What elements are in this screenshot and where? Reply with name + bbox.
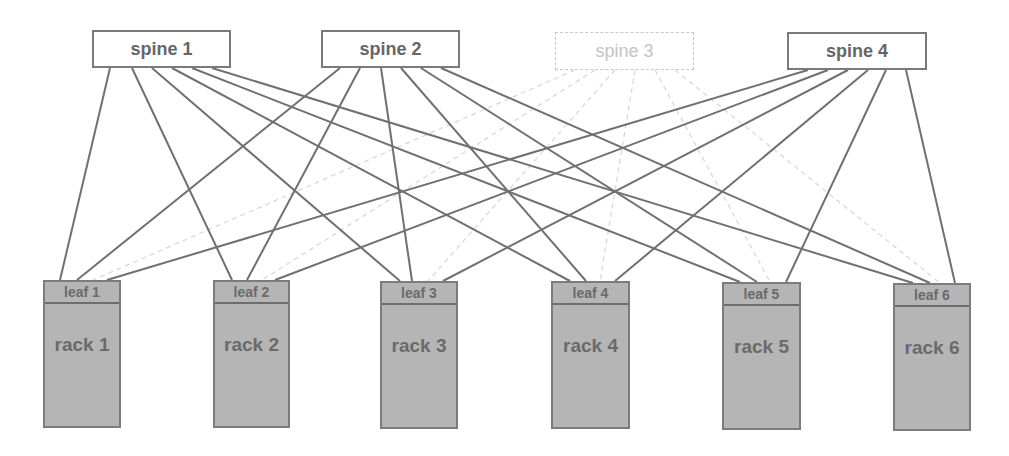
spine-label: spine 2 bbox=[359, 39, 421, 60]
rack-1: leaf 1 rack 1 bbox=[43, 280, 121, 428]
link-line bbox=[172, 68, 570, 281]
inactive-link-line bbox=[600, 70, 635, 281]
spine-switch-3: spine 3 bbox=[555, 32, 694, 70]
link-line bbox=[443, 70, 848, 281]
rack-5: leaf 5 rack 5 bbox=[722, 282, 801, 430]
rack-body: rack 5 bbox=[724, 306, 799, 358]
rack-label: rack 5 bbox=[734, 336, 789, 358]
rack-label: rack 2 bbox=[224, 334, 279, 356]
link-line bbox=[212, 68, 913, 283]
leaf-spine-topology-diagram: spine 1 spine 2 spine 3 spine 4 leaf 1 r… bbox=[0, 0, 1009, 456]
rack-label: rack 3 bbox=[392, 335, 447, 357]
rack-6: leaf 6 rack 6 bbox=[893, 283, 971, 431]
spine-label: spine 3 bbox=[595, 41, 653, 62]
leaf-switch-6: leaf 6 bbox=[895, 285, 969, 307]
rack-label: rack 6 bbox=[905, 337, 960, 359]
spine-label: spine 1 bbox=[130, 39, 192, 60]
inactive-link-line bbox=[655, 70, 770, 282]
link-line bbox=[60, 68, 110, 280]
rack-label: rack 1 bbox=[55, 334, 110, 356]
spine-switch-4: spine 4 bbox=[787, 32, 927, 70]
link-line bbox=[77, 68, 340, 280]
rack-3: leaf 3 rack 3 bbox=[380, 281, 458, 429]
leaf-label: leaf 2 bbox=[234, 284, 270, 300]
link-line bbox=[906, 70, 955, 283]
link-line bbox=[192, 68, 740, 282]
leaf-switch-5: leaf 5 bbox=[724, 284, 799, 306]
spine-switch-1: spine 1 bbox=[92, 30, 231, 68]
leaf-label: leaf 5 bbox=[744, 286, 780, 302]
inactive-link-line bbox=[262, 70, 595, 280]
link-line bbox=[247, 68, 360, 280]
link-line bbox=[132, 68, 232, 280]
spine-label: spine 4 bbox=[826, 41, 888, 62]
link-line bbox=[786, 70, 886, 282]
rack-body: rack 2 bbox=[215, 304, 288, 356]
leaf-label: leaf 4 bbox=[573, 285, 609, 301]
leaf-switch-3: leaf 3 bbox=[382, 283, 456, 305]
link-line bbox=[615, 70, 868, 281]
leaf-switch-4: leaf 4 bbox=[553, 283, 628, 305]
rack-label: rack 4 bbox=[563, 335, 618, 357]
leaf-label: leaf 3 bbox=[401, 285, 437, 301]
inactive-link-line bbox=[93, 70, 575, 280]
leaf-switch-2: leaf 2 bbox=[215, 282, 288, 304]
spine-switch-2: spine 2 bbox=[321, 30, 460, 68]
leaf-label: leaf 6 bbox=[914, 287, 950, 303]
link-line bbox=[275, 70, 828, 280]
rack-4: leaf 4 rack 4 bbox=[551, 281, 630, 429]
rack-body: rack 1 bbox=[45, 304, 119, 356]
leaf-label: leaf 1 bbox=[64, 284, 100, 300]
leaf-switch-1: leaf 1 bbox=[45, 282, 119, 304]
link-line bbox=[381, 68, 412, 281]
rack-body: rack 3 bbox=[382, 305, 456, 357]
rack-body: rack 6 bbox=[895, 307, 969, 359]
rack-body: rack 4 bbox=[553, 305, 628, 357]
rack-2: leaf 2 rack 2 bbox=[213, 280, 290, 428]
